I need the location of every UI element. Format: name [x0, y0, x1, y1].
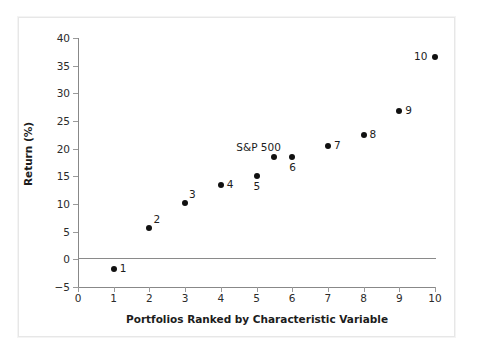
data-point-label: 6 — [289, 162, 296, 173]
y-tick-label-text: 15 — [48, 171, 70, 181]
data-point-marker — [254, 173, 260, 179]
y-tick-mark — [73, 93, 78, 94]
y-tick-label-text: 40 — [48, 33, 70, 43]
y-tick-label-text: 25 — [48, 116, 70, 126]
x-tick-label: 3 — [173, 292, 197, 304]
data-point-label: 8 — [370, 129, 377, 140]
data-point-marker — [218, 182, 224, 188]
data-point-marker — [325, 143, 331, 149]
data-point-label: 7 — [334, 140, 341, 151]
y-tick-label-text: −5 — [48, 282, 70, 292]
x-tick-label: 1 — [102, 292, 126, 304]
y-tick-label: 40 — [44, 33, 70, 43]
x-tick-label: 6 — [280, 292, 304, 304]
y-tick-label: 25 — [44, 116, 70, 126]
data-point-marker — [432, 54, 438, 60]
y-tick-label-text: 10 — [48, 199, 70, 209]
zero-reference-line — [78, 258, 436, 259]
data-point-label: 3 — [189, 189, 196, 200]
x-tick-label: 9 — [387, 292, 411, 304]
data-point-label: 9 — [405, 105, 412, 116]
y-tick-label-text: 20 — [48, 144, 70, 154]
y-tick-label: −5 — [44, 282, 70, 292]
x-tick-label: 4 — [209, 292, 233, 304]
data-point-label: 2 — [153, 214, 160, 225]
data-point-label: 4 — [227, 179, 234, 190]
data-point-label: 5 — [254, 181, 261, 192]
y-tick-mark — [73, 204, 78, 205]
y-tick-label-text: 5 — [48, 227, 70, 237]
x-tick-label: 0 — [66, 292, 90, 304]
data-point-label: S&P 500 — [236, 142, 281, 153]
x-tick-label: 5 — [245, 292, 269, 304]
y-axis-line — [78, 38, 79, 288]
data-point-marker — [146, 225, 152, 231]
data-point-label: 10 — [414, 51, 427, 62]
x-tick-label: 2 — [137, 292, 161, 304]
y-tick-mark — [73, 66, 78, 67]
x-tick-label: 7 — [316, 292, 340, 304]
y-tick-mark — [73, 149, 78, 150]
y-tick-label-text: 35 — [48, 61, 70, 71]
y-tick-mark — [73, 176, 78, 177]
y-tick-label-text: 0 — [48, 254, 70, 264]
data-point-marker — [289, 154, 295, 160]
y-tick-mark — [73, 232, 78, 233]
figure-container: 4035302520151050−5 012345678910 12345S&P… — [0, 0, 477, 354]
x-tick-label: 8 — [352, 292, 376, 304]
data-point-marker — [271, 154, 277, 160]
scatter-plot: 4035302520151050−5 012345678910 12345S&P… — [0, 0, 477, 354]
y-tick-label: 35 — [44, 61, 70, 71]
data-point-marker — [361, 132, 367, 138]
data-point-marker — [182, 200, 188, 206]
y-tick-label-text: 30 — [48, 88, 70, 98]
x-tick-label: 10 — [423, 292, 447, 304]
y-tick-mark — [73, 259, 78, 260]
y-tick-label: 15 — [44, 171, 70, 181]
data-point-marker — [396, 108, 402, 114]
y-tick-label: 5 — [44, 227, 70, 237]
y-tick-label: 30 — [44, 88, 70, 98]
y-tick-mark — [73, 38, 78, 39]
data-point-label: 1 — [120, 263, 127, 274]
y-tick-label: 20 — [44, 144, 70, 154]
data-point-marker — [111, 266, 117, 272]
y-axis-title: Return (%) — [22, 104, 34, 204]
y-tick-label: 10 — [44, 199, 70, 209]
y-tick-label: 0 — [44, 254, 70, 264]
x-axis-title: Portfolios Ranked by Characteristic Vari… — [78, 313, 436, 325]
y-tick-mark — [73, 121, 78, 122]
